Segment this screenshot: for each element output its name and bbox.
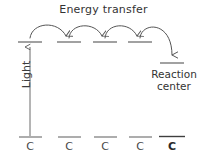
energy-transfer-diagram: Energy transfer Light Reaction center C … — [0, 0, 207, 160]
reaction-center-label-line1: Reaction — [143, 68, 205, 80]
transfer-arc-3 — [105, 26, 137, 38]
reaction-center-label: Reaction center — [143, 68, 205, 92]
diagram-title: Energy transfer — [0, 4, 207, 15]
reaction-center-label-line2: center — [143, 80, 205, 92]
pigment-label-1: C — [22, 141, 38, 152]
light-axis-label: Light — [21, 61, 32, 88]
pigment-label-2: C — [61, 141, 77, 152]
pigment-label-3: C — [97, 141, 113, 152]
transfer-arc-4 — [140, 27, 172, 55]
energy-transfer-arcs — [30, 25, 172, 55]
transfer-arc-1 — [30, 25, 66, 38]
transfer-arc-2 — [69, 26, 102, 38]
excited-state-levels — [18, 42, 184, 63]
pigment-label-5: C — [164, 141, 180, 152]
ground-state-levels — [19, 137, 185, 138]
pigment-label-4: C — [132, 141, 148, 152]
